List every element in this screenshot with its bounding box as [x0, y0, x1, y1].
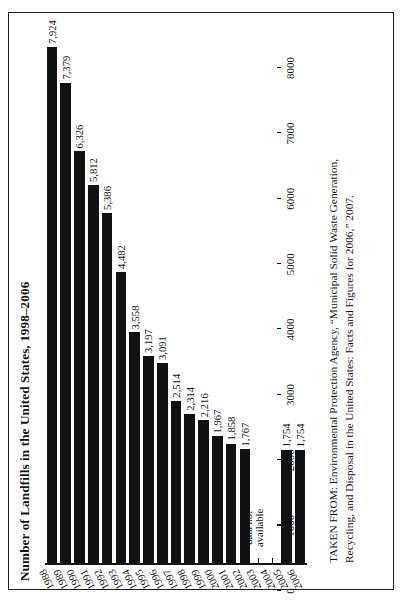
bar-rect-1998 — [184, 414, 195, 565]
bar-value-label-1990: 6,326 — [74, 125, 85, 152]
bar-rect-1988 — [47, 47, 58, 565]
bar-value-label-2001: 1,858 — [226, 417, 237, 444]
bar-rect-1999 — [198, 420, 209, 565]
bar-value-label-1989: 7,379 — [60, 56, 71, 83]
axis-tick-1000 — [277, 524, 281, 525]
bar-rect-1996 — [157, 363, 168, 565]
bar-rect-1992 — [102, 213, 113, 565]
bar-value-label-1992: 5,386 — [102, 186, 113, 213]
missing-tick-2004 — [272, 558, 273, 565]
bar-rect-1994 — [129, 332, 140, 565]
value-axis-ticks: 010002000300040005000600070008000 — [277, 68, 307, 591]
axis-tick-7000 — [277, 132, 281, 133]
bar-rect-1995 — [143, 356, 154, 565]
category-label-2006: 2006 — [285, 568, 304, 592]
bar-value-label-2002: 1,767 — [239, 423, 250, 450]
axis-tick-label-7000: 7000 — [284, 122, 296, 144]
figure-border: Number of Landfills in the United States… — [8, 12, 394, 590]
category-axis-labels: 1988198919901991199219931994199519961997… — [45, 569, 307, 593]
bar-rect-1991 — [88, 185, 99, 565]
bar-value-label-1993: 4,482 — [115, 245, 126, 272]
bar-value-label-1995: 3,197 — [143, 329, 154, 356]
axis-tick-label-1000: 1000 — [284, 515, 296, 537]
bar-rect-2002 — [240, 449, 251, 565]
bar-value-label-1991: 5,812 — [88, 158, 99, 185]
axis-tick-2000 — [277, 459, 281, 460]
gap-note-line-1: data not — [243, 509, 254, 547]
page-title: Number of Landfills in the United States… — [17, 282, 33, 581]
bar-value-label-1996: 3,091 — [157, 336, 168, 363]
axis-tick-3000 — [277, 394, 281, 395]
axis-tick-8000 — [277, 67, 281, 68]
gap-note-line-2: available — [254, 509, 265, 547]
bar-rect-1989 — [60, 83, 71, 565]
source-caption: TAKEN FROM: Environmental Protection Age… — [325, 43, 357, 563]
axis-tick-6000 — [277, 198, 281, 199]
bar-rect-1997 — [171, 401, 182, 565]
bar-value-label-1997: 2,514 — [170, 374, 181, 401]
axis-tick-label-5000: 5000 — [284, 253, 296, 275]
axis-tick-label-2000: 2000 — [284, 449, 296, 471]
rotated-figure-stage: Number of Landfills in the United States… — [9, 13, 395, 591]
bar-value-label-1994: 3,558 — [129, 306, 140, 333]
data-not-available-note: data not available — [243, 509, 265, 547]
axis-tick-label-6000: 6000 — [284, 188, 296, 210]
bar-value-label-1998: 2,314 — [184, 387, 195, 414]
bar-chart-plot-area: 7,9247,3796,3265,8125,3864,4823,5583,197… — [45, 42, 307, 565]
axis-tick-label-3000: 3000 — [284, 384, 296, 406]
axis-tick-label-4000: 4000 — [284, 319, 296, 341]
bar-value-label-1988: 7,924 — [46, 20, 57, 47]
source-line-2: Recycling, and Disposal in the United St… — [341, 43, 357, 563]
axis-tick-5000 — [277, 263, 281, 264]
bar-rect-1993 — [116, 272, 127, 565]
bar-rect-2001 — [226, 444, 237, 565]
axis-tick-4000 — [277, 328, 281, 329]
bar-value-label-2000: 1,967 — [212, 410, 223, 437]
source-line-1: TAKEN FROM: Environmental Protection Age… — [325, 43, 341, 563]
bar-rect-2000 — [212, 436, 223, 565]
axis-tick-label-8000: 8000 — [284, 57, 296, 79]
bar-rect-1990 — [74, 151, 85, 565]
bar-value-label-1999: 2,216 — [198, 393, 209, 420]
missing-tick-2003 — [258, 558, 259, 565]
